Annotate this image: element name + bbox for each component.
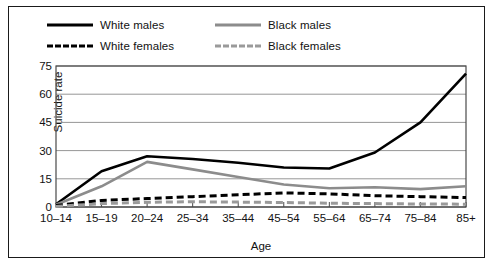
series-line-white-males (56, 74, 466, 205)
chart-plot-area (0, 0, 494, 265)
figure-container: White males Black males White females Bl… (0, 0, 494, 265)
series-line-black-females (56, 202, 466, 207)
plot-frame (56, 66, 466, 207)
